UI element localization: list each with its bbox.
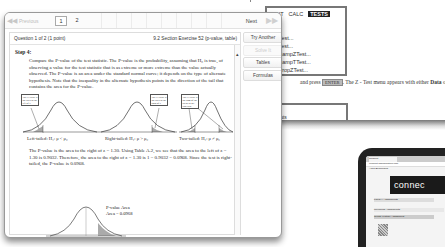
- pvalue-label: P-value Area: [106, 205, 132, 211]
- question-navbar: ◀◀ Previous 1 2 Next ▶▶: [5, 13, 281, 29]
- left-tail-note: The P-value is the area to the left of z: [21, 94, 39, 106]
- step-title: Step 4:: [15, 49, 233, 55]
- page-1-button[interactable]: 1: [55, 16, 67, 26]
- page-2-button[interactable]: 2: [71, 16, 83, 26]
- browser-bookmarks: Apps Bookmarks: [366, 167, 445, 172]
- two-tail-note: The P-value is the sum of the areas in t…: [181, 94, 199, 109]
- background-instruction-text: and press ENTER. The Z - Test menu appea…: [300, 79, 445, 86]
- pvalue-area: Area = 0.0968: [106, 211, 132, 217]
- tools-sidebar: Try Another Solve It Tables Formulas: [243, 32, 282, 235]
- two-tailed-caption: Two-tailed: H₁: μ ≠ μ₀: [179, 136, 220, 142]
- laptop-line: Create a Study Assignment: [374, 215, 434, 219]
- instruction-mid: . The Z - Test menu appears with either: [343, 79, 429, 85]
- right-tail-note: The P-value is the area to the right of …: [150, 94, 168, 106]
- connect-banner: connec: [390, 176, 445, 194]
- solve-it-button[interactable]: Solve It: [243, 45, 282, 56]
- question-panel: Question 1 of 2 (1 point) 9.2 Section Ex…: [9, 32, 241, 235]
- laptop-screen: Connect connect.mheducation.com Apps Boo…: [366, 156, 445, 247]
- right-tailed-caption: Right-tailed: H₁: μ > μ₀: [105, 136, 148, 142]
- calc-menu-tests: TESTS: [308, 11, 330, 17]
- scroll-up-icon[interactable]: ▴: [236, 51, 239, 57]
- nav-spacer: [87, 13, 231, 28]
- pvalue-area-label: P-value Area Area = 0.0968: [106, 205, 132, 216]
- question-header: Question 1 of 2 (1 point) 9.2 Section Ex…: [10, 33, 240, 45]
- enter-key-glyph: ENTER: [322, 79, 343, 86]
- tail-diagrams: The P-value is the area to the left of z…: [19, 94, 233, 144]
- calc-menu-calc: CALC: [289, 11, 304, 17]
- laptop-thumbnail: [378, 224, 388, 236]
- next-arrow-icon[interactable]: ▶▶: [263, 16, 281, 25]
- explanation-paragraph: Compare the P-value of the test statisti…: [19, 58, 233, 90]
- next-button[interactable]: Next: [231, 18, 263, 24]
- laptop-image: Connect connect.mheducation.com Apps Boo…: [358, 148, 445, 247]
- normal-curves-icon: [19, 94, 233, 136]
- step-content: Step 4: Compare the P-value of the test …: [19, 49, 233, 168]
- instruction-data: Data: [430, 79, 441, 85]
- laptop-line: Library | Assignments: [374, 198, 434, 202]
- question-number: Question 1 of 2 (1 point): [14, 36, 65, 41]
- left-tailed-caption: Left-tailed: H₁: μ < μ₀: [27, 136, 68, 142]
- pvalue-paragraph: The P-value is the area to the right of …: [19, 148, 233, 167]
- exercise-title: 9.2 Section Exercise 52 (p-value, table): [153, 36, 237, 41]
- previous-arrow-icon[interactable]: ◀◀: [5, 17, 19, 25]
- instruction-prefix: and press: [300, 79, 321, 85]
- exercise-window: ◀◀ Previous 1 2 Next ▶▶ Question 1 of 2 …: [4, 12, 282, 238]
- laptop-line: Upcoming Assignments: [374, 208, 444, 212]
- formulas-button[interactable]: Formulas: [243, 70, 282, 81]
- previous-button[interactable]: Previous: [19, 18, 55, 24]
- try-another-button[interactable]: Try Another: [243, 32, 282, 43]
- tables-button[interactable]: Tables: [243, 57, 282, 68]
- scrollbar[interactable]: ▴: [234, 45, 240, 235]
